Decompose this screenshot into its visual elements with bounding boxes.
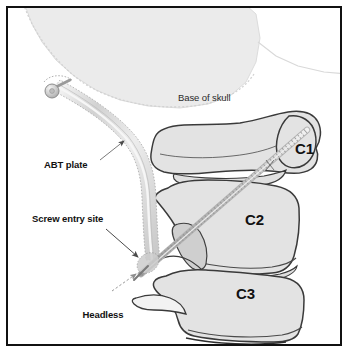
label-headless-screw-line1: Headless — [70, 310, 136, 321]
figure-root: Base of skull ABT plate Screw entry site… — [0, 0, 348, 352]
figure-frame: Base of skull ABT plate Screw entry site… — [6, 6, 342, 346]
vertebra-c3-shape — [132, 270, 304, 344]
leader-screw-entry-site — [106, 229, 138, 257]
label-base-of-skull: Base of skull — [178, 93, 231, 104]
label-abt-plate: ABT plate — [44, 160, 87, 171]
label-vertebra-c2: C2 — [245, 212, 264, 229]
label-screw-entry-site: Screw entry site — [32, 214, 103, 225]
vertebra-c2-shape — [155, 180, 299, 274]
label-vertebra-c3: C3 — [236, 286, 255, 303]
label-vertebra-c1: C1 — [295, 141, 314, 158]
leader-lines — [100, 141, 138, 291]
anatomy-illustration — [8, 8, 340, 344]
label-headless-screw: Headless screw — [70, 289, 136, 346]
label-headless-screw-line2: screw — [70, 342, 136, 346]
leader-abt-plate — [100, 141, 124, 160]
